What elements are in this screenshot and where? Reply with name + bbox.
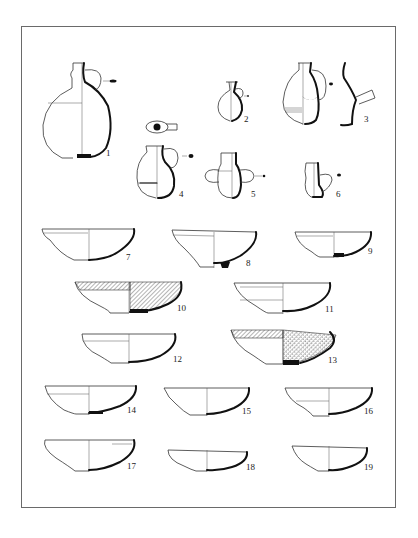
- figure-11-bowl: [234, 283, 330, 314]
- figure-label-12: 12: [173, 355, 182, 364]
- figure-9-bowl: [295, 232, 371, 258]
- figure-label-17: 17: [127, 462, 136, 471]
- figure-15-bowl: [164, 388, 249, 416]
- figure-13-bowl-dotted: [231, 330, 336, 365]
- figure-label-13: 13: [328, 356, 337, 365]
- figure-label-2: 2: [244, 115, 249, 124]
- figure-12-bowl: [82, 334, 175, 364]
- figure-10-bowl-hatched: [75, 282, 181, 313]
- figure-16-bowl: [285, 388, 372, 417]
- figure-label-14: 14: [127, 406, 136, 415]
- figure-label-8: 8: [246, 259, 251, 268]
- figure-7-bowl: [42, 229, 134, 261]
- figure-label-5: 5: [251, 190, 256, 199]
- figure-label-18: 18: [246, 463, 255, 472]
- figure-8-bowl: [172, 230, 256, 268]
- figure-4-top-view: [146, 121, 177, 133]
- figure-label-9: 9: [368, 247, 373, 256]
- figure-label-4: 4: [179, 190, 184, 199]
- figure-18-bowl: [168, 450, 247, 472]
- figure-label-10: 10: [177, 304, 186, 313]
- figure-label-6: 6: [336, 190, 341, 199]
- figure-14-bowl: [45, 386, 136, 415]
- figure-1-flask-jug: [43, 63, 117, 158]
- pottery-plate-drawing: [0, 0, 418, 538]
- figure-label-11: 11: [325, 305, 334, 314]
- figure-label-3: 3: [364, 115, 369, 124]
- figure-5-two-handled-jar: [205, 153, 265, 199]
- figure-4-jug: [137, 146, 194, 199]
- figure-label-1: 1: [106, 149, 111, 158]
- figure-19-bowl: [292, 446, 367, 472]
- figure-17-bowl: [44, 440, 134, 472]
- figure-label-19: 19: [364, 463, 373, 472]
- figure-label-16: 16: [364, 407, 373, 416]
- figure-3-decorated-jug: [283, 63, 375, 125]
- figure-label-15: 15: [242, 407, 251, 416]
- figure-label-7: 7: [126, 253, 131, 262]
